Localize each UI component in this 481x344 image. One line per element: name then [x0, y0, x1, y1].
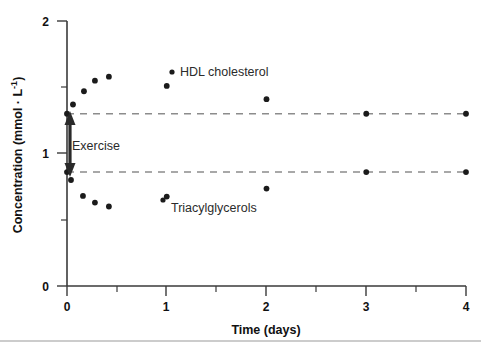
data-point: [264, 96, 270, 102]
data-point: [80, 193, 86, 199]
y-tick-label-0: 0: [42, 280, 49, 294]
x-tick-label-3: 3: [363, 300, 370, 314]
data-point: [264, 186, 270, 192]
svg-text:Concentration (mmol · L-1): Concentration (mmol · L-1): [9, 77, 25, 234]
data-point: [106, 74, 112, 80]
chart-canvas: 2 1 0 0 1 2 3 4 Exercise: [0, 0, 481, 344]
x-tick-label-1: 1: [163, 300, 170, 314]
y-axis-title-main: Concentration (mmol · L: [11, 89, 25, 234]
tag-series-label: Triacylglycerols: [171, 201, 257, 215]
series-hdl-cholesterol-points: [64, 74, 469, 117]
tag-label-marker: [160, 197, 165, 202]
exercise-label: Exercise: [72, 139, 120, 153]
y-axis-title-exponent: -1: [9, 81, 19, 89]
data-point: [81, 88, 87, 94]
data-point: [463, 111, 469, 117]
y-tick-label-2: 2: [42, 15, 49, 29]
series-triacylglycerols-points: [64, 169, 469, 209]
x-axis-title: Time (days): [231, 323, 300, 337]
data-point: [363, 111, 369, 117]
data-point: [92, 200, 98, 206]
x-tick-label-0: 0: [64, 300, 71, 314]
hdl-series-label: HDL cholesterol: [180, 65, 268, 79]
data-point: [106, 204, 112, 210]
data-point: [463, 169, 469, 175]
y-axis-title: Concentration (mmol · L-1): [9, 77, 25, 234]
data-point: [68, 177, 74, 183]
y-tick-label-1: 1: [42, 147, 49, 161]
figure-container: 2 1 0 0 1 2 3 4 Exercise: [0, 0, 481, 344]
data-point: [70, 102, 76, 108]
data-point: [164, 83, 170, 89]
hdl-label-marker: [169, 69, 174, 74]
x-tick-label-2: 2: [263, 300, 270, 314]
data-point: [92, 78, 98, 84]
data-point: [363, 169, 369, 175]
x-tick-label-4: 4: [463, 300, 470, 314]
y-axis-title-close: ): [11, 77, 25, 81]
